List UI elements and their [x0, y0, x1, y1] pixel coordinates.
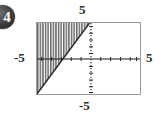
graph-canvas — [37, 23, 140, 94]
axis-label-top: 5 — [79, 3, 86, 16]
plot-frame — [36, 22, 141, 95]
axis-label-bottom: -5 — [79, 99, 90, 112]
graph-figure: 4 — [0, 0, 165, 119]
problem-number-badge: 4 — [0, 5, 15, 29]
axis-label-right: 5 — [146, 51, 153, 64]
axis-label-left: -5 — [14, 51, 25, 64]
plot-area — [37, 23, 140, 94]
problem-number-label: 4 — [0, 7, 14, 27]
